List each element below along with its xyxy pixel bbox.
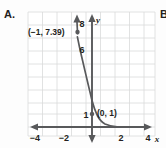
y-axis-arrow-down bbox=[88, 135, 95, 143]
y-tick-label-6: 6 bbox=[79, 45, 84, 55]
y-tick-label-8: 8 bbox=[79, 19, 84, 29]
annotation-point-neg1: (−1, 7.39) bbox=[28, 27, 65, 37]
x-tick-label-4: 4 bbox=[145, 133, 150, 143]
x-axis-label: x bbox=[154, 134, 160, 144]
x-tick-label-neg2: −2 bbox=[59, 133, 69, 143]
x-tick-label-neg4: −4 bbox=[30, 133, 40, 143]
annotation-point-origin: (0, 1) bbox=[97, 108, 117, 118]
y-tick-label-1: 1 bbox=[83, 110, 88, 120]
x-tick-label-2: 2 bbox=[118, 133, 123, 143]
figure-panel-a: A. B. bbox=[0, 0, 166, 148]
point-marker-neg1 bbox=[75, 30, 79, 34]
coordinate-plane: 8 6 1 −4 −2 2 4 x y (−1, 7.39) (0, 1) bbox=[0, 0, 166, 148]
point-marker-origin bbox=[90, 112, 94, 116]
